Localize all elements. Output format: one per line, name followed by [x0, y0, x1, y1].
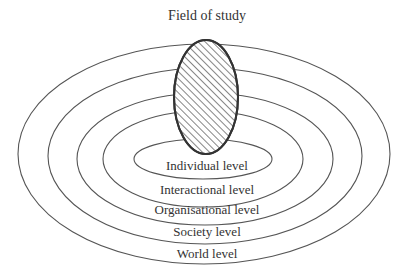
levels-diagram: Field of study Individual level Interact…: [0, 0, 406, 275]
field-of-study-ellipse: [174, 40, 238, 154]
label-individual-level: Individual level: [166, 158, 248, 173]
label-interactional-level: Interactional level: [160, 182, 255, 197]
label-society-level: Society level: [173, 224, 241, 239]
label-world-level: World level: [177, 246, 238, 261]
label-organisational-level: Organisational level: [155, 202, 260, 217]
diagram-title: Field of study: [168, 8, 246, 23]
